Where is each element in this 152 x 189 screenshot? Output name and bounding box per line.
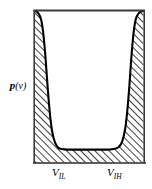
x-tick-label-vil: VIL (52, 167, 65, 178)
probability-density-chart (0, 0, 152, 189)
x-tick-vil-symbol: V (52, 166, 59, 178)
x-tick-vih-subscript: IH (114, 172, 122, 181)
x-tick-vih-symbol: V (107, 166, 114, 178)
x-tick-label-vih: VIH (107, 167, 122, 178)
figure-container: p(v) VIL VIH (0, 0, 152, 189)
y-axis-label: p(v) (3, 80, 33, 91)
x-tick-vil-subscript: IL (59, 172, 66, 181)
y-axis-label-argument: (v) (15, 80, 26, 91)
